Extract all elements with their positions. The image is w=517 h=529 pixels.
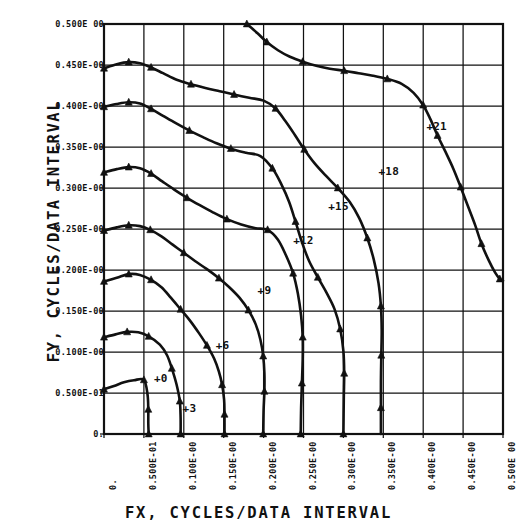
y-axis-title: FY, CYCLES/DATA INTERVAL (45, 81, 63, 381)
x-tick-label: 0.100E-00 (188, 441, 198, 490)
x-tick-label: 0.500E 00 (507, 441, 517, 490)
contour-label-plus9: +9 (258, 284, 272, 297)
x-tick-label: 0. (108, 479, 118, 490)
x-tick-label: 0.300E-00 (347, 441, 357, 490)
x-tick-label: 0.350E-00 (387, 441, 397, 490)
x-tick-label: 0.250E-00 (308, 441, 318, 490)
contour-label-plus0: +0 (154, 372, 168, 385)
contour-label-plus12: +12 (293, 234, 313, 247)
x-tick-label: 0.500E-01 (148, 441, 158, 490)
contour-label-plus21: +21 (426, 120, 446, 133)
x-tick-label: 0.400E-00 (427, 441, 437, 490)
x-tick-label: 0.200E-00 (268, 441, 278, 490)
x-tick-label: 0.450E-00 (467, 441, 477, 490)
contour-label-plus3: +3 (183, 402, 197, 415)
x-tick-label: 0.150E-00 (228, 441, 238, 490)
contour-label-plus6: +6 (216, 339, 230, 352)
contour-label-plus15: +15 (328, 200, 348, 213)
x-axis-title: FX, CYCLES/DATA INTERVAL (0, 504, 517, 522)
x-axis-tick-labels: 0.0.500E-010.100E-000.150E-000.200E-000.… (0, 0, 517, 529)
contour-label-plus18: +18 (379, 165, 399, 178)
